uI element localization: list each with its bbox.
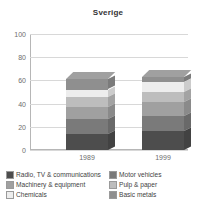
gridline-100 (30, 34, 188, 35)
bar-segment (66, 97, 108, 107)
legend-swatch-icon (6, 181, 14, 189)
chart-title: Sverige (0, 8, 216, 17)
legend-item[interactable]: Basic metals (109, 190, 212, 199)
legend-swatch-icon (109, 191, 117, 199)
gridline-0 (30, 150, 188, 151)
legend-swatch-icon (6, 171, 14, 179)
bar-segment-side (108, 130, 115, 150)
bar-1999: 1999 (142, 77, 184, 150)
bar-segment-side (184, 128, 191, 150)
bar-segment (66, 79, 108, 89)
legend-column-right: Motor vehiclesPulp & paperBasic metals (109, 170, 212, 200)
bar-segment (66, 119, 108, 134)
legend-item-label: Motor vehicles (119, 170, 162, 179)
x-axis-label-1989: 1989 (66, 154, 108, 161)
y-tick-label-60: 60 (18, 77, 26, 84)
bar-segment (142, 116, 184, 131)
gridline-80 (30, 57, 188, 58)
x-axis-label-1999: 1999 (142, 154, 184, 161)
legend-item-label: Basic metals (119, 190, 156, 199)
bar-segment (142, 92, 184, 102)
y-tick-label-100: 100 (14, 31, 26, 38)
bar-segment (66, 107, 108, 119)
chart-legend: Radio, TV & communicationsMachinery & eq… (6, 170, 212, 200)
y-axis (30, 34, 31, 150)
plot-area: 020406080100 19891999 (30, 34, 188, 150)
bar-segment (66, 90, 108, 97)
legend-swatch-icon (6, 191, 14, 199)
legend-item[interactable]: Chemicals (6, 190, 109, 199)
bar-1989: 1989 (66, 79, 108, 150)
bar-segment (142, 82, 184, 92)
legend-item-label: Machinery & equipment (16, 180, 85, 189)
y-tick-label-80: 80 (18, 54, 26, 61)
y-tick-label-0: 0 (22, 147, 26, 154)
bar-segment (66, 134, 108, 150)
legend-item[interactable]: Machinery & equipment (6, 180, 109, 189)
y-tick-label-20: 20 (18, 123, 26, 130)
chart-container: Sverige 020406080100 19891999 Radio, TV … (0, 0, 216, 201)
legend-item-label: Radio, TV & communications (16, 170, 101, 179)
y-tick-label-40: 40 (18, 100, 26, 107)
bar-top-cap (66, 72, 115, 79)
legend-item[interactable]: Pulp & paper (109, 180, 212, 189)
legend-item[interactable]: Radio, TV & communications (6, 170, 109, 179)
legend-swatch-icon (109, 171, 117, 179)
legend-swatch-icon (109, 181, 117, 189)
bar-segment (142, 102, 184, 116)
bar-segment (142, 131, 184, 150)
legend-item-label: Pulp & paper (119, 180, 157, 189)
legend-column-left: Radio, TV & communicationsMachinery & eq… (6, 170, 109, 200)
legend-item[interactable]: Motor vehicles (109, 170, 212, 179)
legend-item-label: Chemicals (16, 190, 47, 199)
bar-top-cap (142, 70, 191, 77)
